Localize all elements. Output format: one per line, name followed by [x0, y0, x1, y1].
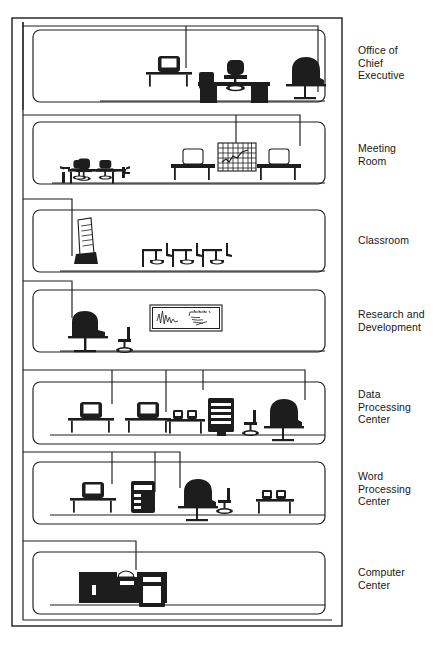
room-label-data-processing-center: Data Processing Center — [358, 388, 411, 426]
room-contents-research-and-development — [60, 305, 325, 353]
room-contents-data-processing-center — [50, 398, 325, 441]
room-contents-meeting-room — [52, 143, 325, 184]
room-label-research-and-development: Research and Development — [358, 308, 425, 333]
diagram-stage: .ln{fill:none;stroke:#1d1d1d;stroke-widt… — [0, 0, 446, 652]
room-contents-office-of-chief-executive — [100, 56, 326, 103]
wall-chart-grid — [218, 143, 256, 171]
room-label-classroom: Classroom — [358, 234, 409, 247]
room-label-meeting-room: Meeting Room — [358, 142, 396, 167]
high-back-chair-on-pedestal — [68, 311, 108, 352]
room-label-computer-center: Computer Center — [358, 566, 405, 591]
room-label-office-of-chief-executive: Office of Chief Executive — [358, 44, 404, 82]
room-label-column: Office of Chief Executive Meeting Room C… — [358, 0, 446, 652]
room-label-word-processing-center: Word Processing Center — [358, 470, 411, 508]
room-contents-classroom — [60, 218, 325, 271]
figure-caption — [18, 640, 438, 652]
room-contents-word-processing-center — [50, 479, 325, 521]
room-contents-computer-center — [50, 571, 325, 607]
